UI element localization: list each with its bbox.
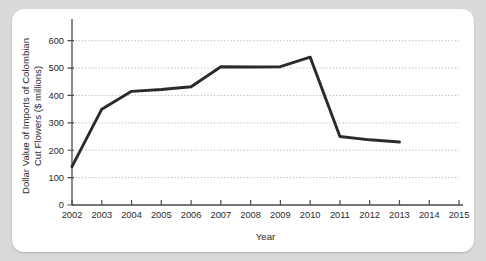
y-tick-label: 600 <box>48 36 64 46</box>
x-axis-title: Year <box>256 231 276 242</box>
y-tick-label: 300 <box>48 118 64 128</box>
x-tick-label: 2007 <box>211 210 232 220</box>
y-tick-label: 100 <box>48 173 64 183</box>
chart-card: 0100200300400500600 20022003200420052006… <box>12 9 474 252</box>
x-axis <box>72 200 463 205</box>
y-axis-title-line1: Dollar Value of Imports of Colombian <box>20 38 31 194</box>
chart-svg: 0100200300400500600 20022003200420052006… <box>12 9 474 252</box>
line-chart: 0100200300400500600 20022003200420052006… <box>12 9 474 252</box>
x-tick-label: 2005 <box>151 210 172 220</box>
x-tick-label: 2015 <box>449 210 470 220</box>
x-tick-label: 2008 <box>240 210 261 220</box>
y-tick-label: 500 <box>48 63 64 73</box>
x-tick-label: 2009 <box>270 210 291 220</box>
y-tick-label: 0 <box>59 200 64 210</box>
x-tick-label: 2002 <box>62 210 83 220</box>
x-tick-label: 2011 <box>330 210 350 220</box>
x-tick-label: 2006 <box>181 210 202 220</box>
y-axis-title-line2: Cut Flowers ($ millions) <box>32 66 43 166</box>
y-tick-label: 200 <box>48 146 64 156</box>
x-tick-label: 2012 <box>359 210 380 220</box>
x-tick-label: 2014 <box>419 210 440 220</box>
x-tick-label: 2010 <box>300 210 321 220</box>
y-tick-labels: 0100200300400500600 <box>48 36 64 210</box>
y-tick-label: 400 <box>48 91 64 101</box>
x-tick-label: 2003 <box>91 210 112 220</box>
x-tick-labels: 2002200320042005200620072008200920102011… <box>62 210 470 220</box>
y-axis <box>68 19 75 205</box>
x-tick-label: 2013 <box>389 210 410 220</box>
gridlines <box>72 41 459 178</box>
x-tick-label: 2004 <box>121 210 142 220</box>
